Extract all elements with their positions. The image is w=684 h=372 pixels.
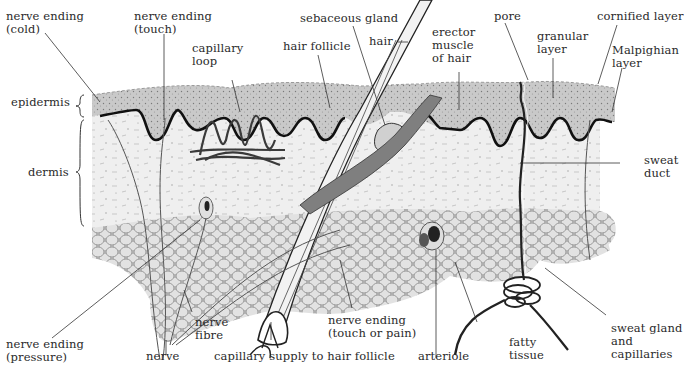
label-epidermis: epidermis (11, 96, 70, 109)
label-nerve-fibre: nerve fibre (195, 316, 229, 342)
label-malpighian-layer: Malpighian layer (612, 44, 679, 70)
fatty-tissue-lobule-right (575, 210, 616, 250)
pacinian-corpuscle-drawing (199, 197, 213, 219)
label-cornified-layer: cornified layer (597, 10, 684, 23)
label-capillary-loop: capillary loop (192, 42, 243, 68)
label-nerve: nerve (146, 350, 180, 363)
label-pore: pore (494, 10, 521, 23)
label-hair: hair (369, 35, 393, 48)
label-capillary-supply: capillary supply to hair follicle (214, 350, 395, 363)
label-nerve-ending-pressure: nerve ending (pressure) (6, 338, 84, 364)
label-nerve-ending-touch: nerve ending (touch) (134, 10, 212, 36)
label-dermis: dermis (28, 166, 69, 179)
label-sweat-duct: sweat duct (644, 154, 679, 180)
label-nerve-ending-touch-pain: nerve ending (touch or pain) (328, 314, 416, 340)
label-arteriole: arteriole (418, 350, 469, 363)
layer-braces (76, 95, 84, 226)
label-sweat-gland: sweat gland and capillaries (611, 322, 682, 361)
label-hair-follicle: hair follicle (283, 40, 351, 53)
label-granular-layer: granular layer (537, 30, 588, 56)
label-fatty-tissue: fatty tissue (509, 336, 544, 362)
label-erector-muscle: erector muscle of hair (432, 26, 475, 65)
label-nerve-ending-cold: nerve ending (cold) (6, 10, 84, 36)
label-sebaceous-gland: sebaceous gland (300, 12, 398, 25)
